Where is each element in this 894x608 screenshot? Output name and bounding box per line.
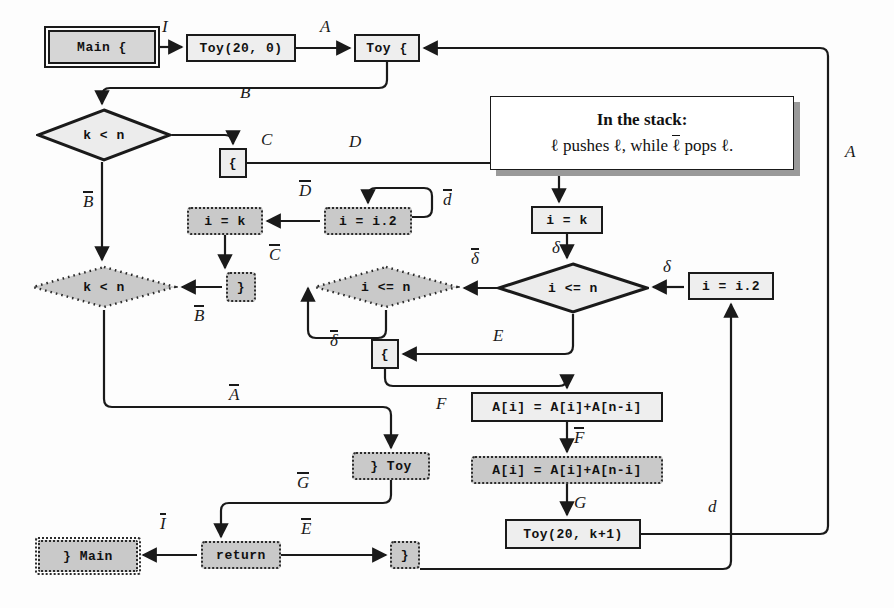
edge-label-I: I xyxy=(162,18,168,35)
edge-label-E: E xyxy=(493,327,503,344)
legend-line-2-suffix: pops ℓ. xyxy=(680,136,733,155)
edge-label-D-bar: D xyxy=(299,181,311,199)
node-label: Toy { xyxy=(366,41,408,56)
node-i-eq-k-dotted[interactable]: i = k xyxy=(187,207,263,235)
edge-label-I-bar: I xyxy=(160,514,166,532)
node-i-eq-i2-dotted[interactable]: i = i.2 xyxy=(324,207,412,235)
node-label: A[i] = A[i]+A[n-i] xyxy=(492,400,641,415)
edge-E xyxy=(403,314,573,354)
edge-label-delta-2: δ xyxy=(663,258,671,275)
node-brace-open-c[interactable]: { xyxy=(219,148,247,178)
legend-line-1: In the stack: xyxy=(597,110,688,130)
decision-label: i <= n xyxy=(548,281,598,296)
node-assign-dotted[interactable]: A[i] = A[i]+A[n-i] xyxy=(471,456,663,484)
node-label: } Main xyxy=(63,549,113,564)
node-label: } xyxy=(401,548,409,563)
node-main-open[interactable]: Main { xyxy=(48,30,156,64)
legend-line-2: ℓ pushes ℓ, while ℓ pops ℓ. xyxy=(551,135,734,156)
node-toy-call-k1[interactable]: Toy(20, k+1) xyxy=(505,519,641,549)
edge-label-delta-1: δ xyxy=(552,239,560,256)
edge-label-B-bar-1: B xyxy=(83,192,93,210)
edge-label-A-bar: A xyxy=(229,385,239,403)
edge-F xyxy=(385,369,567,388)
edge-label-B-bar-2: B xyxy=(194,306,204,324)
decision-i-le-n-solid[interactable]: i <= n xyxy=(497,262,649,314)
edge-label-C: C xyxy=(261,131,272,148)
node-label: Toy(20, 0) xyxy=(199,41,282,56)
node-brace-open-e[interactable]: { xyxy=(371,339,399,369)
node-toy-close-dotted[interactable]: } Toy xyxy=(352,452,430,480)
edge-label-delta-bar-2: δ xyxy=(330,331,338,349)
node-main-close-dotted[interactable]: } Main xyxy=(38,540,138,572)
legend-line-2-bar-ell: ℓ xyxy=(672,135,680,156)
edge-label-F-bar: F xyxy=(574,428,584,446)
node-label: Main { xyxy=(77,40,127,55)
decision-k-lt-n-dotted[interactable]: k < n xyxy=(30,264,178,310)
node-label: { xyxy=(229,156,237,171)
node-brace-close-dotted[interactable]: } xyxy=(226,272,256,302)
node-i-eq-k-solid[interactable]: i = k xyxy=(531,206,603,234)
edge-label-delta-bar-1: δ xyxy=(471,249,479,267)
node-return-dotted[interactable]: return xyxy=(201,541,281,569)
flowchart-canvas: Main { Toy(20, 0) Toy { { i = k i = i.2 … xyxy=(0,0,894,608)
node-label: A[i] = A[i]+A[n-i] xyxy=(492,463,641,478)
decision-label: k < n xyxy=(83,280,125,295)
edge-label-C-bar: C xyxy=(269,245,280,263)
node-label: return xyxy=(216,548,266,563)
node-brace-close2-dotted[interactable]: } xyxy=(390,541,420,569)
edge-label-d-bar: d xyxy=(443,190,452,208)
edge-label-F: F xyxy=(436,395,446,412)
node-label: i = i.2 xyxy=(702,279,760,294)
legend-box: In the stack: ℓ pushes ℓ, while ℓ pops ℓ… xyxy=(490,96,794,170)
edge-label-A-right: A xyxy=(845,143,855,160)
edge-label-E-bar: E xyxy=(301,519,311,537)
edge-label-A-top: A xyxy=(320,18,330,35)
node-label: i = k xyxy=(204,214,246,229)
edge-C xyxy=(172,135,233,144)
node-label: } xyxy=(237,280,245,295)
node-i-eq-i2-solid[interactable]: i = i.2 xyxy=(688,272,774,300)
edge-label-G-bar: G xyxy=(297,473,309,491)
node-label: } Toy xyxy=(370,459,412,474)
legend-line-2-prefix: ℓ pushes ℓ, while xyxy=(551,136,673,155)
node-label: i = k xyxy=(546,213,588,228)
node-toy-open[interactable]: Toy { xyxy=(354,34,420,62)
node-label: Toy(20, k+1) xyxy=(523,527,623,542)
node-assign-solid[interactable]: A[i] = A[i]+A[n-i] xyxy=(471,392,663,422)
decision-label: i <= n xyxy=(361,280,411,295)
edge-label-G: G xyxy=(574,494,586,511)
node-toy-call-0[interactable]: Toy(20, 0) xyxy=(186,34,296,62)
edge-label-B: B xyxy=(240,84,250,101)
node-label: { xyxy=(381,347,389,362)
edge-Abar xyxy=(104,310,391,448)
node-label: i = i.2 xyxy=(339,214,397,229)
decision-i-le-n-dotted[interactable]: i <= n xyxy=(312,264,460,310)
edge-label-d: d xyxy=(708,498,717,515)
decision-k-lt-n-solid[interactable]: k < n xyxy=(36,108,172,162)
decision-label: k < n xyxy=(83,128,125,143)
edge-label-D: D xyxy=(349,133,361,150)
